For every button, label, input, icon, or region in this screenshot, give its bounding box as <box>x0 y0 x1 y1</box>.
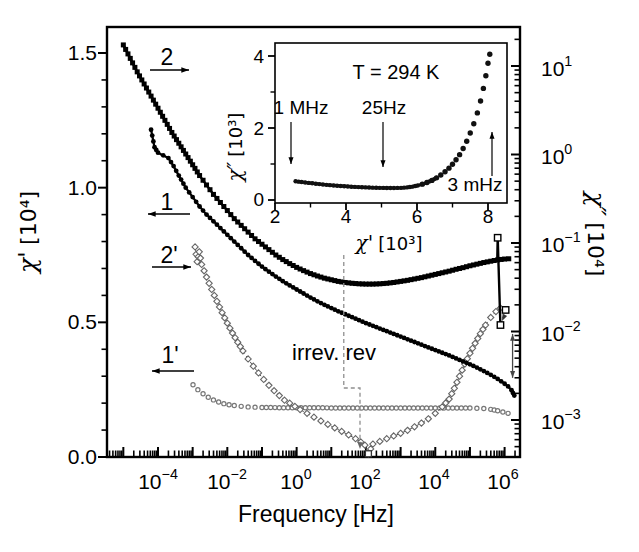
x-axis-ticks <box>110 447 515 456</box>
inset-y-axis-title: χ″ [10³] <box>223 113 247 182</box>
left-axis-tick-label: 1.0 <box>53 177 97 198</box>
left-axis-ticks <box>98 53 107 457</box>
inset-y-tick-label: 0 <box>244 190 264 209</box>
right-axis-ticks <box>511 39 520 446</box>
x-axis-tick-label: 10−4 <box>126 469 190 492</box>
inset-annotation-3mhz: 3 mHz <box>448 175 503 194</box>
left-y-axis-title: χ' [10⁴] <box>13 191 42 273</box>
curve-label-1-prime: 1' <box>161 344 178 367</box>
inset-x-tick-label: 2 <box>270 207 281 226</box>
inset-x-tick-label: 6 <box>412 207 423 226</box>
left-axis-tick-label: 0.0 <box>53 446 97 467</box>
left-axis-tick-label: 0.5 <box>53 311 97 332</box>
right-axis-tick-label: 10−1 <box>541 232 581 255</box>
right-axis-tick-label: 10−3 <box>541 409 581 432</box>
inset-y-tick-label: 4 <box>244 47 264 66</box>
left-axis-tick-label: 1.5 <box>53 42 97 63</box>
inset-annotation-25hz: 25Hz <box>362 98 406 117</box>
curve-2-prime-min-marker <box>365 451 371 457</box>
x-axis-tick-label: 10−2 <box>195 469 259 492</box>
right-axis-tick-label: 100 <box>541 144 572 167</box>
curve-label-2-prime: 2' <box>160 244 177 267</box>
inset-x-tick-label: 4 <box>341 207 352 226</box>
inset-y-tick-label: 2 <box>244 119 264 138</box>
double-arrow <box>510 334 515 378</box>
chi-doubleprime-symbol: χ″ <box>582 192 611 217</box>
x-axis-tick-label: 102 <box>333 469 397 492</box>
curve-label-arrow-1p <box>152 368 194 374</box>
inset-x-tick-label: 8 <box>483 207 494 226</box>
inset-title-temperature: T = 294 K <box>353 61 440 84</box>
regime-annotation: irrev. rev <box>292 340 376 366</box>
curve-label-2: 2 <box>161 46 174 69</box>
x-axis-tick-label: 100 <box>264 469 328 492</box>
curve-label-1: 1 <box>161 191 174 214</box>
right-y-axis-title: χ″ [10⁴] <box>582 192 611 277</box>
x-axis-title: Frequency [Hz] <box>206 501 426 528</box>
x-axis-tick-label: 104 <box>402 469 466 492</box>
right-axis-tick-label: 101 <box>541 56 572 79</box>
inset-x-axis-title: χ' [10³] <box>356 231 423 255</box>
curve-1-prime <box>191 383 510 416</box>
inset-annotation-1mhz: 1 MHz <box>274 98 329 117</box>
x-axis-tick-label: 106 <box>471 469 535 492</box>
chi-prime-symbol: χ' <box>13 251 42 273</box>
susceptibility-spectrum-figure: 1.5 1.0 0.5 0.0 10−4 10−2 100 102 104 10… <box>0 0 639 552</box>
right-axis-tick-label: 10−2 <box>541 321 581 344</box>
